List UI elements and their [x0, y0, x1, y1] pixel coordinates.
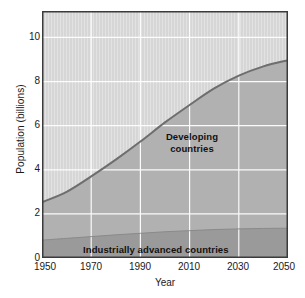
x-axis-title: Year: [42, 277, 288, 288]
x-tick-label: 2030: [218, 261, 258, 272]
x-tick-label: 2050: [264, 261, 304, 272]
x-tick-label: 2010: [169, 261, 209, 272]
x-tick-label: 1950: [25, 261, 65, 272]
population-growth-chart: Population (billions) 0 2 4 6 8 10 Devel…: [0, 0, 305, 298]
x-tick-label: 1990: [120, 261, 160, 272]
x-tick-label: 1970: [71, 261, 111, 272]
x-axis-tick-labels: 1950 1970 1990 2010 2030 2050: [0, 0, 305, 298]
